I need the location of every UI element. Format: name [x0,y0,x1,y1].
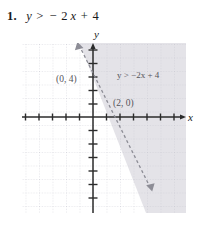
inequality-variable-x: x [71,9,77,23]
inequality-constant: 4 [92,9,98,23]
grid-lines [22,43,186,213]
problem-number: 1. [7,9,17,23]
problem-header: 1. y > − 2 x + 4 [7,6,187,26]
x-axis-label: x [188,112,193,123]
inequality-coefficient: 2 [61,9,67,23]
y-intercept-label: (0, 4) [56,75,77,85]
inequality-minus-sign: − [48,9,58,23]
coordinate-graph [22,43,186,213]
region-inequality-label: y > −2x + 4 [117,71,159,80]
inequality-plus-sign: + [79,9,89,23]
y-axis-label: y [94,29,99,40]
graph-canvas [22,43,186,213]
inequality-variable-y: y [26,9,32,23]
x-intercept-label: (2, 0) [113,99,134,109]
inequality-relation-symbol: > [35,9,45,23]
